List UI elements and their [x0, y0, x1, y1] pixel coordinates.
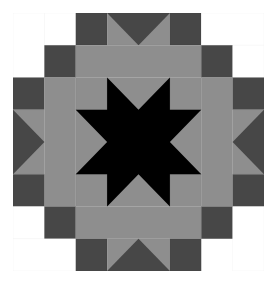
- dark-patch: [76, 239, 107, 271]
- medium-patch: [44, 78, 75, 207]
- dark-patch: [13, 174, 44, 206]
- dark-patch: [44, 207, 75, 239]
- white-patch: [13, 13, 44, 78]
- medium-patch: [76, 207, 202, 239]
- dark-patch: [44, 45, 75, 77]
- quilt-block: [13, 13, 264, 271]
- dark-patch: [201, 45, 232, 77]
- dark-patch: [76, 13, 107, 45]
- dark-patch: [233, 174, 264, 206]
- medium-patch: [76, 45, 202, 77]
- white-patch: [201, 13, 264, 45]
- dark-patch: [201, 207, 232, 239]
- dark-patch: [170, 239, 201, 271]
- white-patch: [13, 207, 44, 239]
- white-patch: [233, 207, 264, 272]
- dark-patch: [233, 78, 264, 110]
- medium-patch: [201, 78, 232, 207]
- white-patch: [233, 45, 264, 77]
- dark-patch: [170, 13, 201, 45]
- white-patch: [44, 13, 75, 45]
- white-patch: [13, 239, 76, 271]
- dark-patch: [13, 78, 44, 110]
